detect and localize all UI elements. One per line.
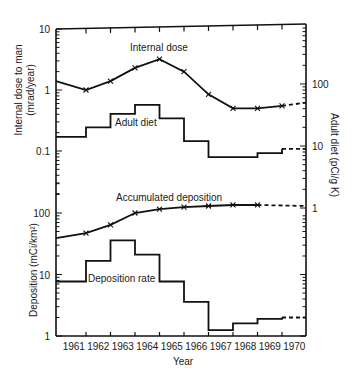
internal-dose-line-projected <box>282 103 306 106</box>
y-axis-title-lower: Deposition (mCi/km²) <box>28 223 39 317</box>
y-tick-label-lower-left: 100 <box>33 208 50 219</box>
y-tick-label-right: 100 <box>312 79 329 90</box>
x-tick-label: 1966 <box>185 341 208 352</box>
y-tick-label-upper-left: 0.1 <box>36 146 50 157</box>
y-axis-title-upper-line2: (mrad/year) <box>25 64 36 116</box>
x-tick-label: 1968 <box>234 341 257 352</box>
internal-dose-line <box>56 59 282 108</box>
accumulated-deposition-line-projected <box>258 205 307 206</box>
series-label-adult-diet: Adult diet <box>115 117 157 128</box>
series-label-deposition-rate: Deposition rate <box>88 273 156 284</box>
x-tick-label: 1961 <box>63 341 86 352</box>
x-tick-label: 1965 <box>161 341 184 352</box>
axis-ticks: 1961196219631964196519661967196819691970… <box>33 24 329 352</box>
y-axis-title-right: Adult diet (pCi/g K) <box>329 113 340 197</box>
chart: 1961196219631964196519661967196819691970… <box>0 0 361 373</box>
y-tick-label-lower-left: 10 <box>39 270 51 281</box>
series-label-internal-dose: Internal dose <box>130 42 188 53</box>
top-axis-line <box>56 24 306 29</box>
y-tick-label-right: 1 <box>312 203 318 214</box>
deposition-rate-step <box>56 240 282 330</box>
series-label-accumulated-deposition: Accumulated deposition <box>116 192 222 203</box>
y-axis-title-upper-line1: Internal dose to man <box>13 44 24 135</box>
x-tick-label: 1969 <box>259 341 282 352</box>
x-axis-title: Year <box>173 356 194 367</box>
x-tick-label: 1962 <box>87 341 110 352</box>
y-tick-label-right: 10 <box>312 141 324 152</box>
adult-diet-step <box>56 105 282 157</box>
x-tick-label: 1970 <box>283 341 306 352</box>
x-tick-label: 1964 <box>136 341 159 352</box>
y-tick-label-upper-left: 10 <box>39 24 51 35</box>
x-tick-label: 1967 <box>210 341 233 352</box>
y-tick-label-lower-left: 1 <box>44 331 50 342</box>
x-tick-label: 1963 <box>112 341 135 352</box>
y-tick-label-upper-left: 1 <box>44 85 50 96</box>
